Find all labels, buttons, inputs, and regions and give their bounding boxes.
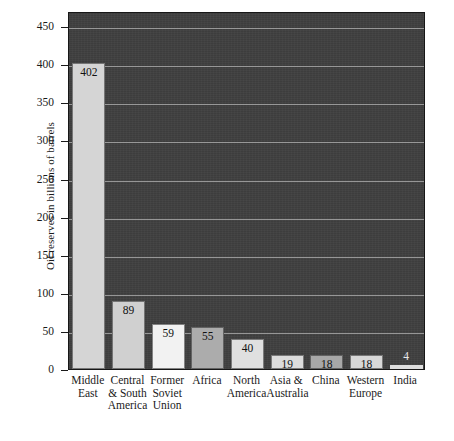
y-tick-mark <box>61 27 68 28</box>
x-axis-category-label: WesternEurope <box>346 374 386 399</box>
category-label-line: Australia <box>266 387 306 400</box>
bar-value-label: 18 <box>361 359 373 370</box>
category-label-line: Middle <box>68 374 108 387</box>
bar[interactable]: 59 <box>152 324 185 369</box>
bar-value-label: 4 <box>403 351 409 363</box>
gridline <box>69 104 424 105</box>
category-label-line: Africa <box>187 374 227 387</box>
category-label-line: Union <box>147 399 187 412</box>
bar-value-label: 402 <box>80 67 97 79</box>
gridline <box>69 295 424 296</box>
y-tick-mark <box>61 103 68 104</box>
gridline <box>69 181 424 182</box>
bar-value-label: 18 <box>321 359 333 370</box>
bar-value-label: 89 <box>123 305 135 317</box>
category-label-line: & South <box>108 387 148 400</box>
y-tick-mark <box>61 65 68 66</box>
bar[interactable]: 19 <box>271 355 304 369</box>
category-label-line: America <box>108 399 148 412</box>
bar[interactable]: 4 <box>390 365 423 369</box>
y-tick-mark <box>61 370 68 371</box>
y-tick-label: 0 <box>20 363 54 375</box>
category-label-line: Former <box>147 374 187 387</box>
x-axis-category-label: FormerSovietUnion <box>147 374 187 412</box>
category-label-line: America <box>227 387 267 400</box>
x-axis-category-label: Asia &Australia <box>266 374 306 399</box>
y-tick-label: 150 <box>20 249 54 261</box>
y-tick-label: 250 <box>20 173 54 185</box>
gridline <box>69 66 424 67</box>
bar[interactable]: 402 <box>72 63 105 369</box>
bar-value-label: 59 <box>162 328 174 340</box>
category-label-line: Soviet <box>147 387 187 400</box>
category-label-line: Central <box>108 374 148 387</box>
bar-value-label: 40 <box>242 343 254 355</box>
bar[interactable]: 18 <box>310 355 343 369</box>
y-tick-label: 50 <box>20 325 54 337</box>
category-label-line: Europe <box>346 387 386 400</box>
y-tick-label: 400 <box>20 58 54 70</box>
category-label-line: Western <box>346 374 386 387</box>
x-axis-category-label: MiddleEast <box>68 374 108 399</box>
y-tick-mark <box>61 141 68 142</box>
bar[interactable]: 89 <box>112 301 145 369</box>
y-tick-mark <box>61 180 68 181</box>
x-axis-category-label: NorthAmerica <box>227 374 267 399</box>
y-tick-label: 300 <box>20 134 54 146</box>
gridline <box>69 142 424 143</box>
y-tick-label: 200 <box>20 211 54 223</box>
x-axis-category-label: Central& SouthAmerica <box>108 374 148 412</box>
bar-value-label: 55 <box>202 331 214 343</box>
gridline <box>69 219 424 220</box>
y-tick-mark <box>61 294 68 295</box>
y-tick-mark <box>61 256 68 257</box>
plot-area: 402895955401918184 <box>68 12 425 370</box>
bar-chart: Oil reserves in billions of barrels 0501… <box>0 0 454 441</box>
y-tick-label: 350 <box>20 96 54 108</box>
x-axis-category-label: China <box>306 374 346 387</box>
category-label-line: India <box>385 374 425 387</box>
category-label-line: North <box>227 374 267 387</box>
y-tick-label: 100 <box>20 287 54 299</box>
category-label-line: China <box>306 374 346 387</box>
bar[interactable]: 55 <box>191 327 224 369</box>
category-label-line: East <box>68 387 108 400</box>
bar[interactable]: 18 <box>350 355 383 369</box>
y-tick-label: 450 <box>20 20 54 32</box>
gridline <box>69 28 424 29</box>
bar-value-label: 19 <box>281 359 293 370</box>
y-tick-mark <box>61 332 68 333</box>
gridline <box>69 257 424 258</box>
category-label-line: Asia & <box>266 374 306 387</box>
bar[interactable]: 40 <box>231 339 264 369</box>
y-tick-mark <box>61 218 68 219</box>
x-axis-category-label: India <box>385 374 425 387</box>
x-axis-category-label: Africa <box>187 374 227 387</box>
